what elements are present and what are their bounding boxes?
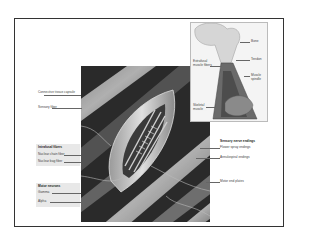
label-motor-end-plates: Motor end plates	[220, 180, 244, 184]
leader-line	[64, 155, 81, 156]
label-gamma: Gamma	[38, 191, 49, 195]
leader-line	[200, 148, 220, 149]
label-motor-neurons-heading: Motor neurons	[38, 185, 60, 189]
label-intrafusal-fibers-heading: Intrafusal fibers	[38, 146, 62, 150]
label-nuclear-chain-fiber: Nuclear chain fiber	[38, 153, 65, 157]
label-alpha: Alpha	[38, 200, 46, 204]
label-annulospiral-endings: Annulospiral endings	[220, 156, 250, 160]
label-muscle-spindle: Muscle spindle	[251, 74, 265, 81]
leader-line	[244, 76, 250, 77]
leader-line	[64, 162, 81, 163]
label-sensory-nerve-endings-heading: Sensory nerve endings	[220, 140, 255, 144]
leader-line	[240, 42, 250, 43]
leader-line	[206, 182, 220, 183]
leader-line	[206, 107, 216, 108]
leader-line	[236, 60, 250, 61]
leader-line	[210, 66, 222, 67]
leader-line	[50, 202, 81, 203]
label-bone: Bone	[251, 40, 258, 44]
label-connective-tissue-capsule: Connective tissue capsule	[38, 91, 75, 95]
label-nuclear-bag-fiber: Nuclear bag fiber	[38, 160, 62, 164]
label-skeletal-muscle: Skeletal muscle	[193, 104, 207, 111]
label-tendon: Tendon	[251, 58, 261, 62]
label-flower-spray-endings: Flower spray endings	[220, 146, 250, 150]
leader-line	[44, 95, 81, 96]
leader-line	[52, 193, 81, 194]
leader-line	[196, 158, 220, 159]
label-sensory-fiber: Sensory fiber	[38, 106, 57, 110]
